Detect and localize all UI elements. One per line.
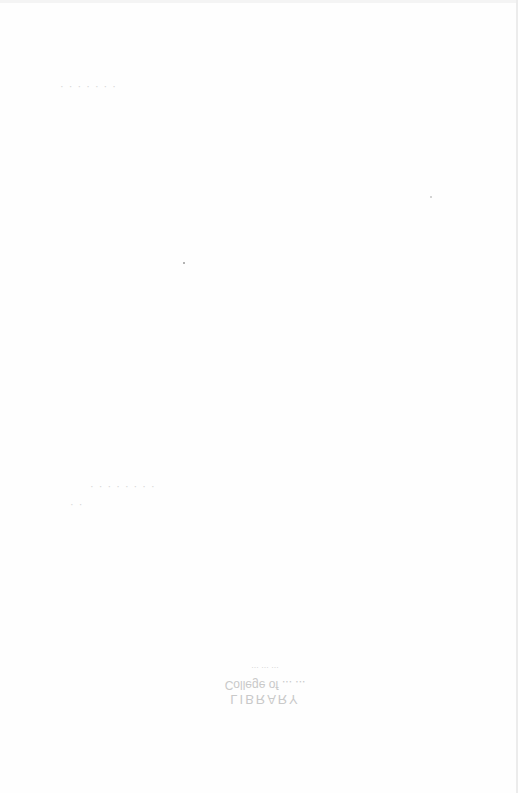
scanned-page: · · · · · · · · · · · · · · · · · LIBRAR… xyxy=(0,0,518,793)
bleed-through-header: · · · · · · · xyxy=(60,80,117,92)
stamp-line-1: LIBRARY xyxy=(190,692,340,707)
stamp-line-2: College of ... ... xyxy=(190,677,340,692)
scan-speck xyxy=(430,196,432,198)
scan-speck xyxy=(183,262,185,264)
page-top-edge xyxy=(0,0,518,3)
stamp-line-3: ... ... ... xyxy=(190,662,340,677)
bleed-through-text: · · · · · · · · xyxy=(90,480,156,492)
library-stamp-bleed-through: LIBRARY College of ... ... ... ... ... xyxy=(190,662,340,707)
bleed-through-text-2: · · xyxy=(70,498,83,510)
